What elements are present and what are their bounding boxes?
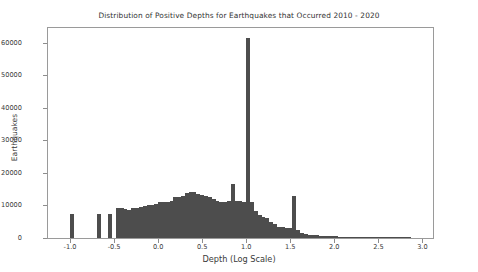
y-tick-label: 50000 — [0, 71, 22, 79]
histogram-bars — [48, 28, 433, 238]
histogram-bar — [407, 237, 411, 238]
y-tick-label: 60000 — [0, 39, 22, 47]
x-tick-mark — [70, 239, 71, 243]
x-tick-label: 0.5 — [182, 243, 222, 251]
x-tick-label: 1.5 — [270, 243, 310, 251]
x-tick-mark — [422, 239, 423, 243]
y-tick-label: 20000 — [0, 169, 22, 177]
histogram-bar — [70, 214, 74, 238]
y-tick-label: 10000 — [0, 201, 22, 209]
chart-title: Distribution of Positive Depths for Eart… — [0, 11, 478, 20]
chart-figure: Distribution of Positive Depths for Eart… — [0, 0, 478, 272]
x-tick-mark — [114, 239, 115, 243]
x-tick-mark — [378, 239, 379, 243]
x-tick-label: -0.5 — [94, 243, 134, 251]
x-tick-mark — [246, 239, 247, 243]
x-tick-mark — [158, 239, 159, 243]
x-tick-mark — [202, 239, 203, 243]
y-tick-label: 30000 — [0, 136, 22, 144]
x-tick-mark — [290, 239, 291, 243]
x-tick-label: 2.0 — [314, 243, 354, 251]
x-tick-label: 3.0 — [402, 243, 442, 251]
x-tick-label: 0.0 — [138, 243, 178, 251]
histogram-bar — [97, 214, 101, 238]
x-tick-label: 2.5 — [358, 243, 398, 251]
x-tick-mark — [334, 239, 335, 243]
x-tick-label: -1.0 — [50, 243, 90, 251]
y-tick-label: 0 — [0, 234, 22, 242]
plot-area — [47, 27, 434, 239]
y-tick-label: 40000 — [0, 104, 22, 112]
x-tick-label: 1.0 — [226, 243, 266, 251]
histogram-bar — [108, 214, 112, 238]
x-axis-label: Depth (Log Scale) — [0, 254, 478, 264]
